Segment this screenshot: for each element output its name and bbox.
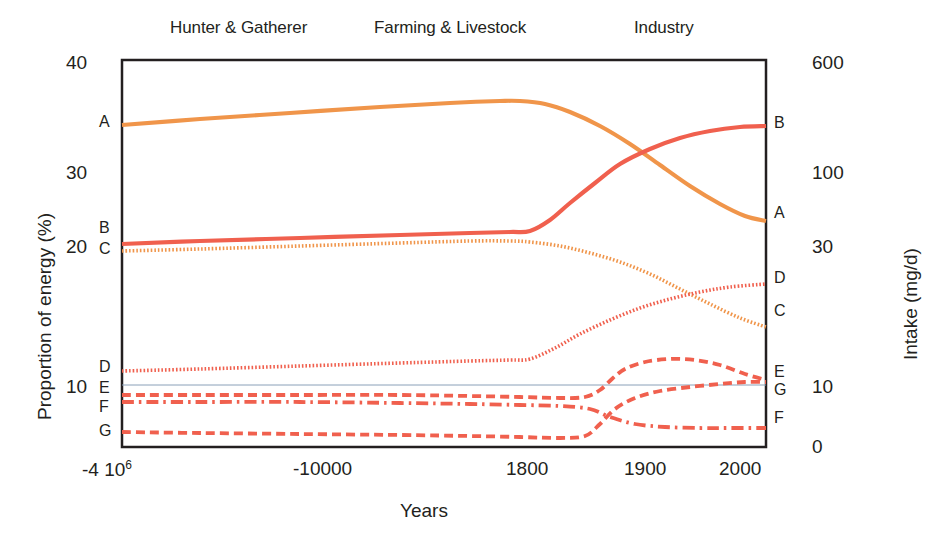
- y-axis-right-title: Intake (mg/d): [900, 248, 922, 360]
- era-label-industry: Industry: [634, 18, 694, 38]
- x-tick-minus-4e6: -4 106: [82, 458, 132, 481]
- series-label-right-B: B: [774, 114, 785, 132]
- series-label-right-G: G: [774, 381, 786, 399]
- series-label-left-E: E: [99, 379, 110, 397]
- plot-area: [0, 0, 927, 540]
- series-line-A: [122, 101, 766, 221]
- y-right-tick-0: 0: [812, 436, 823, 458]
- x-tick-minus-10000: -10000: [293, 458, 352, 480]
- y-right-tick-100: 100: [812, 162, 844, 184]
- series-label-right-A: A: [774, 204, 785, 222]
- series-label-right-C: C: [774, 302, 786, 320]
- x-tick-minus-4e6-text: -4 10: [82, 459, 125, 480]
- series-label-left-F: F: [99, 398, 109, 416]
- series-line-G: [122, 382, 766, 438]
- series-label-left-G: G: [99, 422, 111, 440]
- series-label-left-C: C: [99, 240, 111, 258]
- series-line-E: [122, 359, 766, 398]
- y-left-tick-20: 20: [66, 236, 87, 258]
- chart-figure: Hunter & Gatherer Farming & Livestock In…: [0, 0, 927, 540]
- x-tick-exponent: 6: [125, 458, 132, 472]
- x-tick-2000: 2000: [719, 458, 761, 480]
- series-label-right-D: D: [774, 269, 786, 287]
- y-right-tick-600: 600: [812, 52, 844, 74]
- y-right-tick-30: 30: [812, 236, 833, 258]
- series-label-right-F: F: [774, 409, 784, 427]
- series-line-B: [122, 126, 766, 244]
- series-paths: [122, 101, 766, 438]
- x-tick-1800: 1800: [506, 458, 548, 480]
- x-tick-1900: 1900: [624, 458, 666, 480]
- era-label-farming-livestock: Farming & Livestock: [374, 18, 526, 38]
- y-right-tick-10: 10: [812, 376, 833, 398]
- series-line-C: [122, 241, 766, 327]
- x-axis-title: Years: [400, 500, 448, 522]
- series-line-F: [122, 402, 766, 428]
- series-label-left-B: B: [99, 219, 110, 237]
- series-line-D: [122, 284, 766, 371]
- series-label-right-E: E: [774, 363, 785, 381]
- series-label-left-D: D: [99, 358, 111, 376]
- y-left-tick-30: 30: [66, 162, 87, 184]
- series-label-left-A: A: [99, 113, 110, 131]
- plot-frame: [122, 60, 766, 447]
- y-left-tick-40: 40: [66, 52, 87, 74]
- y-axis-left-title: Proportion of energy (%): [34, 213, 56, 420]
- y-left-tick-10: 10: [66, 376, 87, 398]
- era-label-hunter-gatherer: Hunter & Gatherer: [170, 18, 307, 38]
